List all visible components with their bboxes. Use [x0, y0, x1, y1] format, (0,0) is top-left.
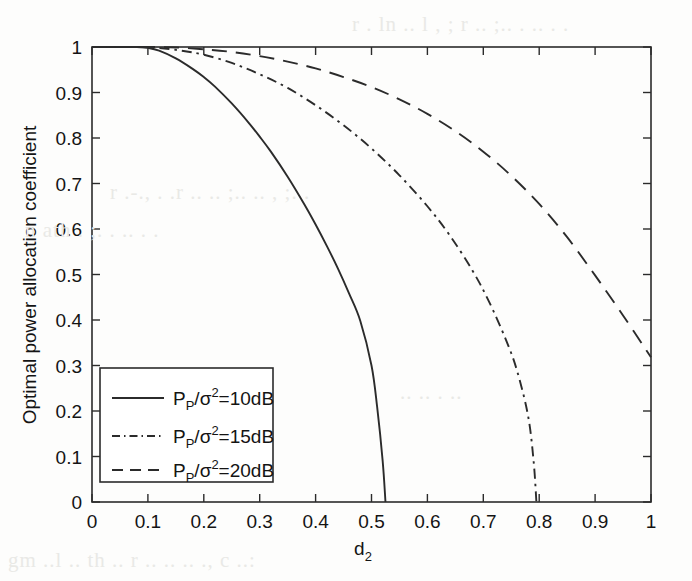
- x-tick-label: 0.2: [191, 511, 217, 532]
- y-tick-label: 0.2: [56, 401, 82, 422]
- x-tick-label: 0.7: [470, 511, 496, 532]
- y-tick-label: 0.5: [56, 265, 82, 286]
- figure-container: r . ln .. l , ; r .. ;.. . .. . . r .-.,…: [0, 0, 692, 581]
- y-tick-label: 0: [71, 492, 82, 513]
- y-tick-label: 0.4: [56, 310, 83, 331]
- x-tick-label: 0.5: [358, 511, 384, 532]
- x-tick-label: 0.6: [414, 511, 440, 532]
- x-axis-tick-labels: 00.10.20.30.40.50.60.70.80.91: [87, 511, 657, 532]
- chart-plot: 00.10.20.30.40.50.60.70.80.91 00.10.20.3…: [0, 0, 692, 581]
- y-axis-label: Optimal power allocation coefficient: [19, 125, 40, 424]
- y-tick-label: 0.6: [56, 219, 82, 240]
- series-line-20db: [92, 47, 651, 357]
- x-tick-label: 1: [646, 511, 657, 532]
- x-tick-label: 0.3: [246, 511, 272, 532]
- x-axis-label-subscript: 2: [365, 549, 372, 564]
- x-tick-label: 0.1: [135, 511, 161, 532]
- y-tick-label: 0.3: [56, 356, 82, 377]
- y-tick-label: 0.7: [56, 174, 82, 195]
- y-tick-label: 0.9: [56, 83, 82, 104]
- x-axis-label-base: d: [354, 538, 365, 559]
- x-tick-label: 0.8: [526, 511, 552, 532]
- y-tick-label: 0.8: [56, 128, 82, 149]
- y-axis-tick-labels: 00.10.20.30.40.50.60.70.80.91: [56, 37, 83, 513]
- x-tick-label: 0: [87, 511, 98, 532]
- x-axis-label: d2: [354, 538, 372, 564]
- x-tick-label: 0.9: [582, 511, 608, 532]
- legend[interactable]: PP/σ2=10dB PP/σ2=15dB PP/σ2=20dB: [100, 368, 274, 485]
- y-tick-label: 1: [71, 37, 82, 58]
- y-tick-label: 0.1: [56, 447, 82, 468]
- x-tick-label: 0.4: [302, 511, 329, 532]
